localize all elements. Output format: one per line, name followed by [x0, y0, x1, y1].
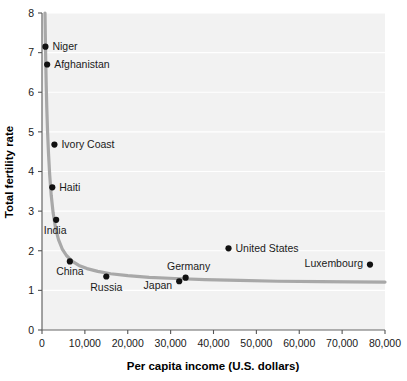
data-point-label: Germany [167, 260, 211, 272]
data-point-marker [103, 273, 109, 279]
x-tick-label: 20,000 [112, 337, 144, 349]
y-tick-label: 1 [28, 284, 34, 296]
data-point-label: Niger [52, 40, 78, 52]
data-point-label: Japan [144, 279, 173, 291]
x-tick-label: 50,000 [240, 337, 272, 349]
data-point: Afghanistan [44, 58, 110, 70]
y-tick-label: 3 [28, 205, 34, 217]
data-point-marker [53, 217, 59, 223]
data-point-label: Russia [90, 281, 122, 293]
y-tick-label: 8 [28, 7, 34, 19]
y-tick-label: 4 [28, 165, 34, 177]
chart-container: 012345678 010,00020,00030,00040,00050,00… [0, 0, 407, 381]
data-point-marker [225, 245, 231, 251]
y-axis-title: Total fertility rate [3, 126, 15, 218]
data-point-marker [183, 275, 189, 281]
x-tick-label: 70,000 [326, 337, 358, 349]
data-point-label: United States [236, 242, 299, 254]
data-point-label: Ivory Coast [61, 138, 114, 150]
y-tick-label: 2 [28, 245, 34, 257]
data-point-label: China [56, 265, 84, 277]
data-point-marker [67, 258, 73, 264]
y-tick-label: 7 [28, 46, 34, 58]
x-tick-label: 60,000 [283, 337, 315, 349]
x-axis-title: Per capita income (U.S. dollars) [127, 360, 300, 372]
y-axis-ticks: 012345678 [28, 7, 42, 336]
data-point-label: India [44, 224, 67, 236]
x-tick-label: 10,000 [69, 337, 101, 349]
data-point: United States [225, 242, 298, 254]
fertility-vs-income-scatter-plot: 012345678 010,00020,00030,00040,00050,00… [0, 0, 407, 381]
data-point-marker [49, 184, 55, 190]
x-axis-ticks: 010,00020,00030,00040,00050,00060,00070,… [39, 330, 401, 349]
x-tick-label: 30,000 [155, 337, 187, 349]
x-tick-label: 80,000 [369, 337, 401, 349]
data-point-label: Luxembourg [305, 257, 364, 269]
data-point-marker [51, 141, 57, 147]
x-tick-label: 40,000 [197, 337, 229, 349]
y-tick-label: 0 [28, 324, 34, 336]
data-point-marker [176, 278, 182, 284]
x-tick-label: 0 [39, 337, 45, 349]
data-point-marker [367, 262, 373, 268]
y-tick-label: 5 [28, 126, 34, 138]
data-point-marker [44, 61, 50, 67]
y-tick-label: 6 [28, 86, 34, 98]
data-point-label: Afghanistan [54, 58, 110, 70]
data-point-label: Haiti [59, 181, 80, 193]
data-point-marker [42, 44, 48, 50]
data-point: Luxembourg [305, 257, 373, 269]
data-point: Ivory Coast [51, 138, 114, 150]
